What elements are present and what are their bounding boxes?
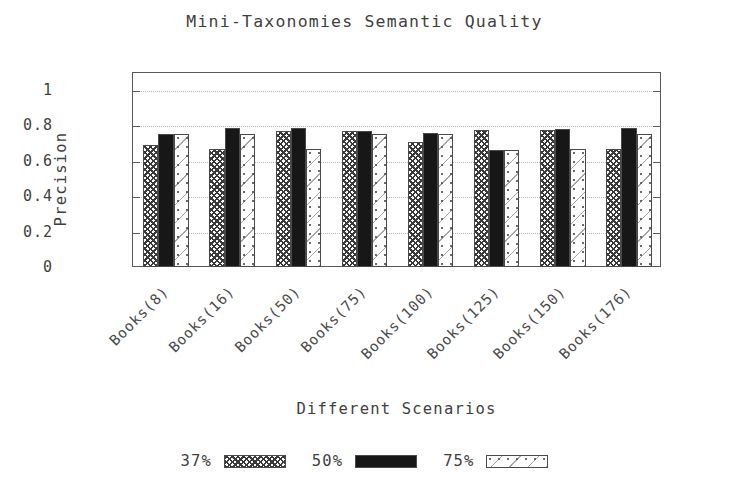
legend-label: 37% (181, 452, 212, 470)
bar (209, 149, 224, 267)
bar (240, 134, 255, 267)
legend-label: 75% (443, 452, 474, 470)
bar (423, 133, 438, 267)
chart-legend: 37%50%75% (0, 452, 729, 470)
bar (225, 128, 240, 267)
bar (291, 128, 306, 267)
bar (372, 134, 387, 267)
bar (606, 149, 621, 267)
bar (438, 134, 453, 267)
bar (637, 134, 652, 267)
bar (174, 134, 189, 267)
legend-item: 37% (181, 452, 312, 470)
x-axis-label: Different Scenarios (132, 400, 661, 418)
legend-swatch (486, 455, 548, 468)
legend-swatch (224, 455, 286, 468)
bar (621, 128, 636, 267)
bar (276, 131, 291, 268)
legend-item: 75% (443, 452, 548, 470)
bar (408, 142, 423, 267)
bar (489, 150, 504, 267)
bar (555, 129, 570, 267)
bar (474, 130, 489, 267)
bar (143, 145, 158, 267)
bar (504, 150, 519, 267)
legend-item: 50% (312, 452, 443, 470)
legend-label: 50% (312, 452, 343, 470)
bar (540, 130, 555, 267)
bar (357, 131, 372, 267)
legend-swatch (355, 455, 417, 468)
bar (342, 131, 357, 267)
bar-chart: Mini-Taxonomies Semantic Quality Precisi… (0, 0, 729, 492)
bar (570, 149, 585, 267)
bar (306, 149, 321, 267)
bar (158, 134, 173, 267)
